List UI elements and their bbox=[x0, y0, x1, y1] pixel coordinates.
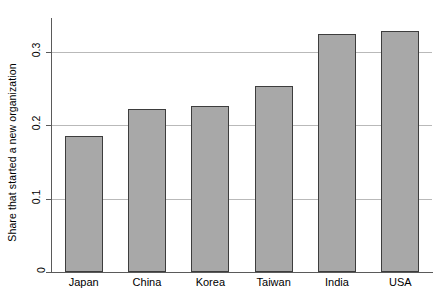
x-tick-label-korea: Korea bbox=[179, 276, 242, 288]
gridline-0.3 bbox=[52, 52, 432, 53]
gridline-0.1 bbox=[52, 199, 432, 200]
y-tick-label: 0.1 bbox=[0, 191, 44, 203]
x-tick-label-india: India bbox=[305, 276, 368, 288]
y-tick-label: 0.2 bbox=[0, 117, 44, 129]
bar-india bbox=[318, 34, 356, 272]
bar-usa bbox=[381, 31, 419, 272]
y-tick-label: 0.3 bbox=[0, 44, 44, 56]
bar-chart-figure: Share that started a new organization 00… bbox=[0, 0, 447, 305]
bar-china bbox=[128, 109, 166, 272]
bar-korea bbox=[191, 106, 229, 272]
y-tick-label-text: 0.3 bbox=[31, 43, 43, 58]
x-tick-label-taiwan: Taiwan bbox=[242, 276, 305, 288]
x-axis-line bbox=[52, 272, 433, 273]
x-tick-label-china: China bbox=[115, 276, 178, 288]
bar-japan bbox=[65, 136, 103, 272]
x-tick-label-japan: Japan bbox=[52, 276, 115, 288]
x-tick-label-usa: USA bbox=[369, 276, 432, 288]
y-tick-label-text: 0.1 bbox=[31, 189, 43, 204]
y-tick-label: 0 bbox=[0, 264, 44, 276]
y-tick-label-text: 0.2 bbox=[31, 116, 43, 131]
plot-area bbox=[52, 18, 432, 272]
gridline-0.2 bbox=[52, 125, 432, 126]
bar-taiwan bbox=[255, 86, 293, 272]
y-tick-label-text: 0 bbox=[35, 267, 47, 273]
